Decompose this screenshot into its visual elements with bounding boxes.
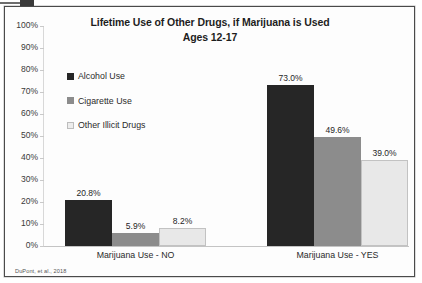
y-axis-label-10: 10%: [5, 219, 38, 228]
source-citation: DuPont, et al., 2018: [15, 268, 66, 274]
y-axis-label-70: 70%: [5, 87, 38, 96]
bar-value-label: 20.8%: [61, 188, 116, 198]
y-axis-label-80: 80%: [5, 65, 38, 74]
y-axis-label-100: 100%: [5, 21, 38, 30]
scan-artifact-mark: [20, 0, 34, 6]
category-label-no: Marijuana Use - NO: [35, 250, 236, 261]
bar-no-series2: [159, 228, 206, 246]
bar-no-series0: [65, 200, 112, 246]
y-axis-label-0: 0%: [5, 241, 38, 250]
bar-value-label: 73.0%: [263, 73, 318, 83]
legend-item-other-illicit-drugs: Other Illicit Drugs: [67, 120, 145, 130]
legend-swatch-icon: [67, 122, 74, 129]
category-label-yes: Marijuana Use - YES: [237, 250, 422, 261]
chart-legend: Alcohol UseCigarette UseOther Illicit Dr…: [67, 71, 145, 145]
bar-value-label: 49.6%: [310, 125, 365, 135]
bar-yes-series0: [267, 85, 314, 246]
legend-label: Other Illicit Drugs: [78, 120, 145, 130]
y-axis-label-20: 20%: [5, 197, 38, 206]
y-axis-label-50: 50%: [5, 131, 38, 140]
y-axis-label-60: 60%: [5, 109, 38, 118]
y-axis-label-90: 90%: [5, 43, 38, 52]
bar-yes-series1: [314, 137, 361, 246]
legend-item-alcohol-use: Alcohol Use: [67, 71, 145, 81]
legend-label: Alcohol Use: [78, 71, 125, 81]
bar-value-label: 8.2%: [155, 216, 210, 226]
legend-label: Cigarette Use: [78, 96, 132, 106]
bar-value-label: 39.0%: [357, 148, 412, 158]
figure-frame: Lifetime Use of Other Drugs, if Marijuan…: [4, 6, 415, 277]
bar-no-series1: [112, 233, 159, 246]
bar-yes-series2: [361, 160, 408, 246]
legend-swatch-icon: [67, 73, 74, 80]
y-axis-label-40: 40%: [5, 153, 38, 162]
y-axis-label-30: 30%: [5, 175, 38, 184]
legend-swatch-icon: [67, 97, 74, 104]
legend-item-cigarette-use: Cigarette Use: [67, 96, 145, 106]
